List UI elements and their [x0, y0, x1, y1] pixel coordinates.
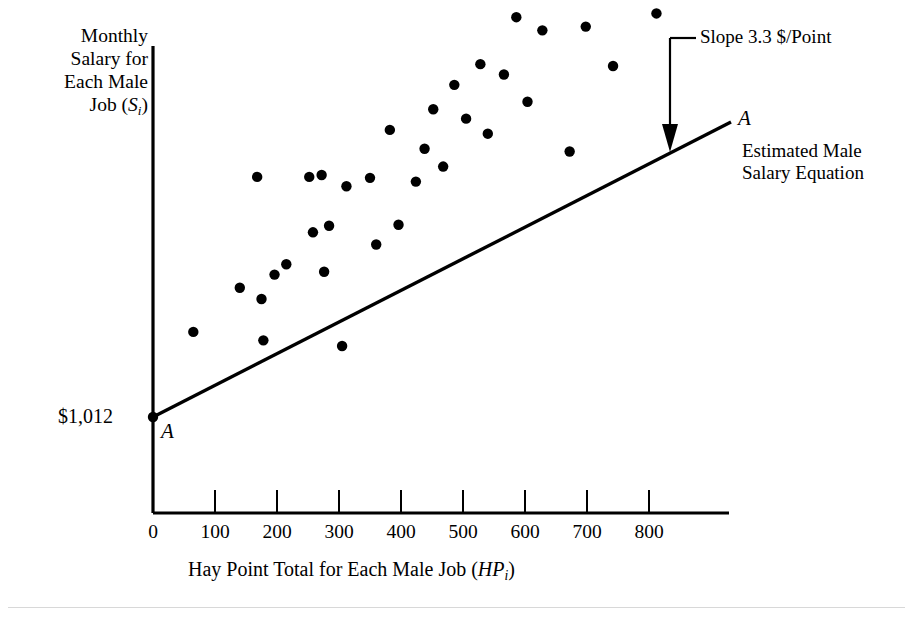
- data-point: [235, 283, 245, 293]
- footer-divider: [8, 607, 905, 608]
- data-point: [419, 144, 429, 154]
- line-label-left: A: [161, 419, 174, 444]
- data-point: [499, 69, 509, 79]
- data-point: [393, 220, 403, 230]
- x-tick-label-600: 600: [510, 521, 539, 543]
- data-point: [188, 327, 198, 337]
- data-point: [304, 172, 314, 182]
- data-point: [341, 181, 351, 191]
- data-point: [256, 294, 266, 304]
- data-point: [308, 227, 318, 237]
- estimated-equation-label: Estimated Male Salary Equation: [742, 140, 912, 185]
- data-point: [449, 80, 459, 90]
- x-tick-label-300: 300: [324, 521, 353, 543]
- x-tick-label-400: 400: [386, 521, 415, 543]
- x-tick-label-500: 500: [448, 521, 477, 543]
- data-point: [522, 97, 532, 107]
- x-tick-label-0: 0: [148, 521, 158, 543]
- data-points-group: [148, 0, 662, 422]
- data-point: [324, 221, 334, 231]
- data-point: [608, 61, 618, 71]
- data-point: [252, 172, 262, 182]
- line-label-right: A: [738, 106, 751, 131]
- x-tick-label-800: 800: [634, 521, 663, 543]
- data-point: [148, 412, 158, 422]
- data-point: [461, 113, 471, 123]
- x-tick-label-200: 200: [262, 521, 291, 543]
- data-point: [438, 161, 448, 171]
- data-point: [651, 8, 661, 18]
- data-point: [371, 239, 381, 249]
- slope-callout-leader: [662, 38, 696, 152]
- data-point: [316, 170, 326, 180]
- equation-label-line1: Estimated Male: [742, 140, 862, 161]
- data-point: [581, 21, 591, 31]
- data-point: [269, 269, 279, 279]
- data-point: [337, 341, 347, 351]
- data-point: [411, 176, 421, 186]
- data-point: [428, 104, 438, 114]
- data-point: [385, 125, 395, 135]
- x-axis-title: Hay Point Total for Each Male Job (HPi): [188, 558, 515, 584]
- data-point: [511, 12, 521, 22]
- x-tick-label-700: 700: [572, 521, 601, 543]
- data-point: [365, 173, 375, 183]
- slope-annotation-label: Slope 3.3 $/Point: [700, 26, 831, 48]
- equation-label-line2: Salary Equation: [742, 162, 864, 183]
- data-point: [483, 128, 493, 138]
- arrowhead-icon: [662, 124, 678, 152]
- data-point: [564, 146, 574, 156]
- data-point: [281, 259, 291, 269]
- data-point: [319, 267, 329, 277]
- y-axis-title: Monthly Salary for Each Male Job (Si): [44, 24, 148, 118]
- data-point: [537, 25, 547, 35]
- data-point: [258, 335, 268, 345]
- x-tick-label-100: 100: [200, 521, 229, 543]
- data-point: [475, 59, 485, 69]
- figure-container: Monthly Salary for Each Male Job (Si) Ha…: [0, 0, 913, 624]
- x-axis-ticks: [153, 490, 649, 513]
- y-intercept-label: $1,012: [58, 405, 113, 429]
